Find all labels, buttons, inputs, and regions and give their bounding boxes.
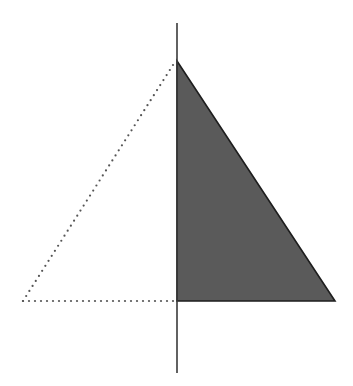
dot <box>111 159 113 161</box>
dot <box>105 169 107 171</box>
dot <box>118 149 120 151</box>
dot <box>99 179 101 181</box>
dot <box>124 139 126 141</box>
dot <box>31 285 33 287</box>
dot <box>159 84 161 86</box>
dot <box>76 300 78 302</box>
dot <box>40 300 42 302</box>
dot <box>44 265 46 267</box>
dot <box>67 230 69 232</box>
dot <box>134 124 136 126</box>
dot <box>118 300 120 302</box>
dot <box>41 270 43 272</box>
dot <box>124 300 126 302</box>
dot <box>121 144 123 146</box>
dot <box>28 300 30 302</box>
dot <box>100 300 102 302</box>
dot <box>86 199 88 201</box>
dot <box>38 275 40 277</box>
dot <box>28 290 30 292</box>
dot <box>172 300 174 302</box>
dot <box>108 164 110 166</box>
dot <box>106 300 108 302</box>
dot <box>82 300 84 302</box>
dot <box>160 300 162 302</box>
dot <box>130 300 132 302</box>
dot <box>76 215 78 217</box>
dot <box>57 245 59 247</box>
dot <box>130 129 132 131</box>
dot <box>150 99 152 101</box>
dot <box>153 94 155 96</box>
reflection-diagram <box>0 0 353 386</box>
dot <box>156 89 158 91</box>
dot <box>169 69 171 71</box>
dot <box>35 280 37 282</box>
dot <box>172 64 174 66</box>
dot <box>148 300 150 302</box>
dot <box>166 300 168 302</box>
dot <box>143 109 145 111</box>
dot <box>137 119 139 121</box>
dot <box>142 300 144 302</box>
dot <box>127 134 129 136</box>
dot <box>112 300 114 302</box>
dot <box>140 114 142 116</box>
dot <box>114 154 116 156</box>
dot <box>154 300 156 302</box>
dot <box>47 260 49 262</box>
dot <box>95 184 97 186</box>
dot <box>25 295 27 297</box>
dot <box>136 300 138 302</box>
dot <box>70 225 72 227</box>
dot <box>46 300 48 302</box>
dot <box>162 79 164 81</box>
dot <box>146 104 148 106</box>
dot <box>79 210 81 212</box>
dot <box>22 300 24 302</box>
dot <box>70 300 72 302</box>
dot <box>89 194 91 196</box>
dot <box>64 300 66 302</box>
dot <box>60 240 62 242</box>
dot <box>34 300 36 302</box>
dot <box>54 250 56 252</box>
dot <box>102 174 104 176</box>
dot <box>166 74 168 76</box>
dot <box>51 255 53 257</box>
dot <box>58 300 60 302</box>
dot <box>92 189 94 191</box>
dot <box>83 205 85 207</box>
dot <box>52 300 54 302</box>
dot <box>73 220 75 222</box>
dot <box>94 300 96 302</box>
dot <box>88 300 90 302</box>
dot <box>63 235 65 237</box>
